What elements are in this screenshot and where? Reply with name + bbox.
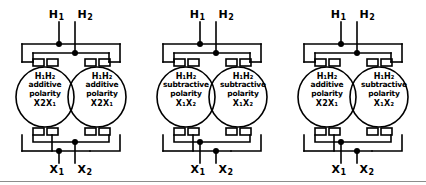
group-1-schematic bbox=[0, 0, 142, 185]
h1-label: H1 bbox=[331, 8, 347, 21]
transformer-right-bottom-tap-b bbox=[381, 128, 392, 135]
group-3-top-terminal-labels: H1 H2 bbox=[331, 9, 376, 20]
transformer-right-core bbox=[350, 67, 408, 127]
junction-dot-x2 bbox=[213, 148, 219, 154]
junction-dot-x2 bbox=[354, 148, 360, 154]
transformer-right-core bbox=[209, 67, 267, 127]
transformer-right-top-tap-a bbox=[85, 59, 96, 66]
h1-label: H1 bbox=[49, 8, 65, 21]
diagram-group-3: H1 H2 bbox=[282, 0, 424, 185]
group-2-top-terminal-labels: H1 H2 bbox=[190, 9, 235, 20]
diagram-group-1: H1 H2 bbox=[0, 0, 142, 185]
diagram-group-2: H1 H2 bbox=[141, 0, 283, 185]
junction-dot-x1 bbox=[338, 139, 344, 145]
group-2-bottom-terminal-labels: X1 X2 bbox=[190, 164, 233, 175]
x1-label: X1 bbox=[331, 163, 346, 176]
transformer-left-top-tap-a bbox=[33, 59, 44, 66]
group-1-top-terminal-labels: H1 H2 bbox=[49, 9, 94, 20]
h2-label: H2 bbox=[360, 8, 376, 21]
x2-bus-right bbox=[372, 135, 402, 151]
h2-label: H2 bbox=[78, 8, 94, 21]
x1-bus-right bbox=[90, 135, 120, 151]
x2-label: X2 bbox=[219, 163, 234, 176]
junction-dot-h2 bbox=[354, 50, 360, 56]
x1-label: X1 bbox=[49, 163, 64, 176]
x1-bus bbox=[315, 135, 391, 142]
transformer-right-bottom-tap-a bbox=[85, 128, 96, 135]
transformer-left-top-tap-b bbox=[329, 59, 340, 66]
transformer-left-bottom-tap-b bbox=[188, 128, 199, 135]
transformer-left-bottom-tap-b bbox=[329, 128, 340, 135]
junction-dot-x1 bbox=[56, 148, 62, 154]
x1-bus bbox=[174, 135, 250, 142]
transformer-right-top-tap-a bbox=[367, 59, 378, 66]
group-1-bottom-terminal-labels: X1 X2 bbox=[49, 164, 92, 175]
h1-label: H1 bbox=[190, 8, 206, 21]
junction-dot-h2 bbox=[72, 50, 78, 56]
transformer-polarity-figure: H1 H2 bbox=[0, 0, 426, 185]
transformer-left-top-tap-a bbox=[174, 59, 185, 66]
transformer-left-core bbox=[157, 67, 215, 127]
transformer-left-bottom-tap-a bbox=[33, 128, 44, 135]
x2-bus bbox=[33, 135, 109, 142]
junction-dot-h1 bbox=[338, 41, 344, 47]
transformer-right-bottom-tap-b bbox=[240, 128, 251, 135]
junction-dot-h1 bbox=[56, 41, 62, 47]
transformer-right-top-tap-a bbox=[226, 59, 237, 66]
h2-label: H2 bbox=[219, 8, 235, 21]
transformer-left-top-tap-b bbox=[188, 59, 199, 66]
transformer-left-top-tap-b bbox=[47, 59, 58, 66]
x1-label: X1 bbox=[190, 163, 205, 176]
x2-label: X2 bbox=[78, 163, 93, 176]
transformer-right-bottom-tap-a bbox=[367, 128, 378, 135]
transformer-right-bottom-tap-a bbox=[226, 128, 237, 135]
x2-bus-right bbox=[231, 135, 261, 151]
junction-dot-x1 bbox=[197, 139, 203, 145]
transformer-right-core bbox=[68, 67, 126, 127]
group-3-bottom-terminal-labels: X1 X2 bbox=[331, 164, 374, 175]
transformer-left-core bbox=[16, 67, 74, 127]
transformer-left-bottom-tap-a bbox=[315, 128, 326, 135]
group-2-schematic bbox=[141, 0, 283, 185]
transformer-left-bottom-tap-a bbox=[174, 128, 185, 135]
x2-label: X2 bbox=[360, 163, 375, 176]
transformer-right-bottom-tap-b bbox=[99, 128, 110, 135]
junction-dot-h1 bbox=[197, 41, 203, 47]
figure-bottom-rule bbox=[0, 181, 426, 182]
junction-dot-x2 bbox=[72, 139, 78, 145]
junction-dot-h2 bbox=[213, 50, 219, 56]
group-3-schematic bbox=[282, 0, 424, 185]
transformer-left-core bbox=[298, 67, 356, 127]
transformer-left-top-tap-a bbox=[315, 59, 326, 66]
transformer-left-bottom-tap-b bbox=[47, 128, 58, 135]
